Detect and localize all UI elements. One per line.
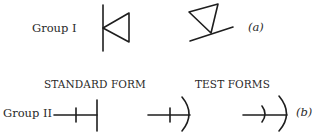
group2-label: Group II	[3, 108, 52, 120]
group2-test-symbol-1	[148, 97, 190, 131]
group1-tag: (a)	[248, 22, 264, 34]
group2-test-symbol-2	[243, 96, 287, 131]
group2-tag: (b)	[296, 107, 312, 119]
group1-label: Group I	[32, 23, 77, 35]
diagram-canvas: Group I (a) STANDARD FORM TEST FORMS Gro…	[0, 0, 328, 139]
group1-symbol-tilted-triangle	[189, 4, 233, 41]
test-forms-caption: TEST FORMS	[195, 79, 270, 90]
standard-form-caption: STANDARD FORM	[44, 79, 146, 90]
group1-symbol-vertical-triangle	[103, 5, 129, 51]
group2-standard-symbol	[54, 100, 97, 131]
